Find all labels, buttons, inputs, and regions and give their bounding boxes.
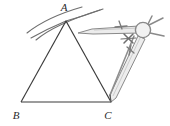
- vertex-label-c: C: [104, 109, 112, 121]
- compass-top-fork: [148, 16, 164, 36]
- geometry-figure: A B C: [0, 0, 170, 126]
- compass-hinge-knob: [135, 22, 150, 37]
- construction-arc-from-b: [27, 7, 82, 33]
- compass-upper-arm: [78, 26, 140, 34]
- compass-tool: [78, 16, 164, 102]
- compass-pencil-leg: [110, 36, 145, 102]
- vertex-label-a: A: [60, 1, 68, 13]
- construction-diagram-canvas: A B C: [0, 0, 170, 126]
- triangle-side-ab: [21, 21, 66, 102]
- vertex-label-b: B: [13, 109, 20, 121]
